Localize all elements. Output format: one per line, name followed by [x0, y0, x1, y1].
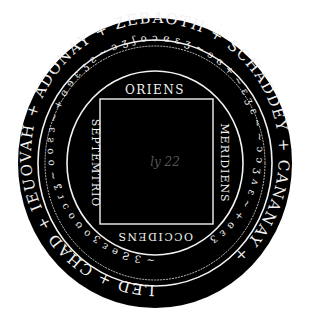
center-label: ly 22	[150, 155, 180, 169]
seal-image: LED + CHAD + IEUOVAH + ADONAY + ZEBAOTH …	[0, 0, 311, 326]
direction-bottom: OCCIDENS	[117, 230, 193, 243]
direction-left: SEPTEMTRIO	[89, 119, 102, 208]
direction-top: ORIENS	[125, 83, 185, 97]
direction-right: MERIDIENS	[218, 123, 231, 202]
